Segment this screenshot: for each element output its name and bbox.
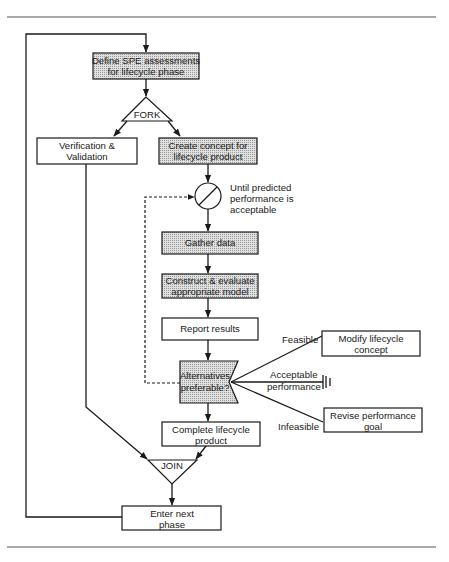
verify-to-join-arrow — [86, 164, 147, 459]
report-label: Report results — [180, 323, 240, 334]
fork-to-create-arrow — [168, 121, 180, 136]
feasible-label: Feasible — [282, 334, 318, 345]
create-concept-node[interactable]: Create concept for lifecycle product — [159, 138, 257, 164]
join-label: JOIN — [161, 460, 183, 471]
revise-line2: goal — [364, 421, 382, 432]
enter-next-phase-node[interactable]: Enter next phase — [122, 506, 221, 530]
fork-node[interactable]: FORK — [122, 97, 172, 121]
alternatives-line1: Alternatives — [180, 370, 230, 381]
acceptable-label-line1: Acceptable — [270, 369, 317, 380]
verification-node[interactable]: Verification & Validation — [37, 138, 137, 164]
construct-line1: Construct & evaluate — [165, 275, 254, 286]
revise-goal-node[interactable]: Revise performance goal — [324, 408, 422, 432]
create-line1: Create concept for — [169, 140, 249, 151]
acceptable-label-line2: performance — [267, 381, 321, 392]
fork-to-verify-arrow — [114, 121, 127, 136]
fork-label: FORK — [134, 109, 161, 120]
verify-line2: Validation — [66, 151, 107, 162]
construct-model-node[interactable]: Construct & evaluate appropriate model — [162, 274, 258, 298]
complete-line2: product — [195, 435, 227, 446]
alternatives-decision-node[interactable]: Alternatives preferable? — [180, 361, 238, 403]
define-spe-node[interactable]: Define SPE assessments for lifecycle pha… — [92, 53, 200, 79]
loop-condition-line3: acceptable — [230, 204, 276, 215]
join-node[interactable]: JOIN — [148, 460, 197, 484]
infeasible-label: Infeasible — [278, 421, 319, 432]
gather-data-node[interactable]: Gather data — [162, 232, 258, 254]
modify-line2: concept — [354, 344, 388, 355]
alternatives-line2: preferable? — [181, 382, 230, 393]
loop-condition-line1: Until predicted — [230, 182, 291, 193]
create-line2: lifecycle product — [174, 151, 243, 162]
spe-flowchart: Define SPE assessments for lifecycle pha… — [0, 0, 449, 562]
loop-condition-line2: performance is — [230, 193, 294, 204]
report-results-node[interactable]: Report results — [162, 318, 258, 340]
enter-line2: phase — [159, 519, 185, 530]
enter-line1: Enter next — [150, 508, 194, 519]
modify-concept-node[interactable]: Modify lifecycle concept — [322, 331, 420, 356]
define-line1: Define SPE assessments — [92, 55, 200, 66]
complete-to-join-arrow — [196, 446, 206, 459]
define-line2: for lifecycle phase — [108, 66, 185, 77]
gather-label: Gather data — [185, 237, 236, 248]
modify-line1: Modify lifecycle — [338, 333, 403, 344]
iteration-loop-node[interactable] — [195, 183, 221, 209]
terminator-symbol-icon — [323, 375, 330, 389]
construct-line2: appropriate model — [171, 286, 248, 297]
complete-product-node[interactable]: Complete lifecycle product — [162, 422, 260, 446]
revise-line1: Revise performance — [330, 410, 416, 421]
verify-line1: Verification & — [59, 140, 116, 151]
complete-line1: Complete lifecycle — [172, 424, 250, 435]
